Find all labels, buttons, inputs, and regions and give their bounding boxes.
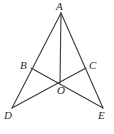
- vertex-label-D: D: [4, 110, 12, 121]
- vertex-label-C: C: [89, 60, 96, 71]
- vertex-label-O: O: [57, 85, 65, 96]
- geometry-figure: A B C D E O: [0, 0, 114, 134]
- segment-AO: [60, 13, 61, 83]
- vertex-label-B: B: [20, 60, 27, 71]
- figure-canvas: [0, 0, 114, 134]
- segment-BE: [31, 68, 103, 108]
- vertex-label-A: A: [56, 1, 63, 12]
- segment-AE: [61, 13, 103, 108]
- segment-CD: [12, 68, 86, 108]
- vertex-label-E: E: [98, 110, 105, 121]
